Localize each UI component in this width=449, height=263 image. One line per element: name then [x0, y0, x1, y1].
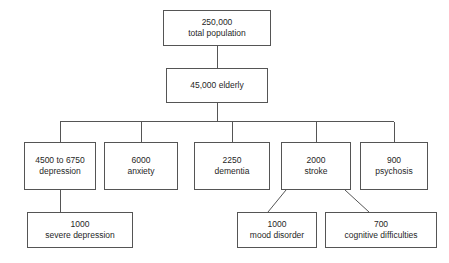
node-psychosis-count: 900	[387, 155, 401, 166]
node-stroke-label: stroke	[304, 166, 327, 177]
edge-stroke-to-mood-disorder	[268, 190, 286, 212]
node-psychosis-label: psychosis	[375, 166, 412, 177]
node-depression: 4500 to 6750 depression	[24, 142, 96, 190]
edge-stroke-to-cognitive-difficulties	[345, 190, 369, 212]
node-mood-disorder-count: 1000	[268, 219, 287, 230]
node-dementia-count: 2250	[223, 155, 242, 166]
node-elderly-count: 45,000 elderly	[190, 80, 243, 91]
node-dementia-label: dementia	[215, 166, 250, 177]
node-cognitive-difficulties-count: 700	[374, 219, 388, 230]
node-anxiety-count: 6000	[132, 155, 151, 166]
node-psychosis: 900 psychosis	[360, 142, 428, 190]
node-total-population-label: total population	[188, 28, 246, 39]
node-severe-depression-label: severe depression	[45, 230, 114, 241]
node-dementia: 2250 dementia	[194, 142, 270, 190]
node-mood-disorder: 1000 mood disorder	[237, 212, 317, 248]
node-anxiety: 6000 anxiety	[104, 142, 178, 190]
node-severe-depression-count: 1000	[71, 219, 90, 230]
node-elderly: 45,000 elderly	[166, 68, 268, 103]
node-depression-count: 4500 to 6750	[35, 155, 85, 166]
node-total-population: 250,000 total population	[163, 10, 271, 46]
node-severe-depression: 1000 severe depression	[27, 212, 133, 248]
node-cognitive-difficulties: 700 cognitive difficulties	[325, 212, 437, 248]
node-stroke: 2000 stroke	[281, 142, 351, 190]
node-total-population-count: 250,000	[202, 17, 233, 28]
node-depression-label: depression	[39, 166, 81, 177]
node-cognitive-difficulties-label: cognitive difficulties	[344, 230, 417, 241]
node-mood-disorder-label: mood disorder	[250, 230, 304, 241]
population-breakdown-flowchart: 250,000 total population 45,000 elderly …	[0, 0, 449, 263]
node-stroke-count: 2000	[307, 155, 326, 166]
node-anxiety-label: anxiety	[128, 166, 155, 177]
